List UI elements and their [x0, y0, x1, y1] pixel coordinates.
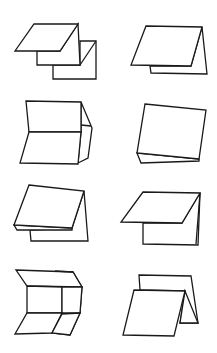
- figure-1-z-fold: [15, 24, 96, 79]
- figure-8-accordion-tent: [123, 275, 198, 336]
- figure-6-overhang-fold: [121, 192, 200, 245]
- figure-4-tilted-fold: [137, 104, 206, 163]
- figure-3-open-fold-side-flap: [20, 101, 92, 164]
- fold-diagrams: [0, 0, 217, 353]
- figure-5-double-layer-fold: [14, 185, 88, 241]
- figure-7-gate-fold: [15, 270, 82, 335]
- fold-diagram-canvas: [0, 0, 217, 353]
- figure-2-single-fold: [131, 26, 207, 74]
